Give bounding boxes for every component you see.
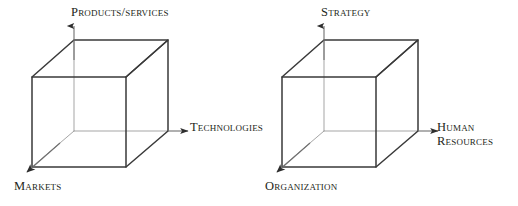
- right-cube-group: [277, 26, 438, 172]
- left-cube-axes: [27, 26, 188, 172]
- axis-label-technologies: Technologies: [190, 121, 263, 135]
- axis-label-organization: Organization: [265, 180, 337, 194]
- axis-label-markets: Markets: [14, 180, 62, 194]
- left-cube-group: [27, 26, 188, 172]
- axis-label-products-services: Products/services: [71, 6, 169, 20]
- cubes-diagram: [0, 0, 518, 206]
- axis-label-human-line: Human: [437, 121, 493, 135]
- left-cube-visible-edges: [32, 40, 168, 167]
- axis-label-resources-line: Resources: [437, 135, 493, 149]
- axis-label-human-resources: Human Resources: [437, 121, 493, 148]
- axis-label-strategy: Strategy: [321, 6, 371, 20]
- figure-root: Products/services Technologies Markets S…: [0, 0, 518, 206]
- right-cube-visible-edges: [282, 40, 418, 167]
- right-cube-axes: [277, 26, 438, 172]
